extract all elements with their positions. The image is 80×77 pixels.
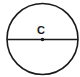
circle-diagram: C xyxy=(0,0,80,77)
center-label: C xyxy=(37,24,45,36)
center-point xyxy=(41,38,45,42)
